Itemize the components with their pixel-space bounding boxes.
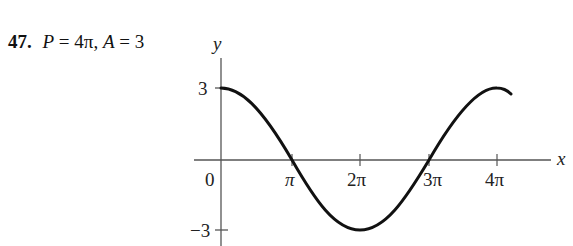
cosine-graph: y x 3 −3 0 π 2π 3π 4π: [0, 0, 573, 246]
y-axis-label: y: [211, 33, 222, 54]
x-axis-label: x: [556, 148, 566, 169]
x-tick-label-2pi: 2π: [347, 169, 367, 190]
cosine-curve: [221, 88, 511, 230]
x-tick-label-3pi: 3π: [423, 169, 443, 190]
y-tick-label-3: 3: [198, 78, 208, 99]
x-tick-label-4pi: 4π: [485, 169, 505, 190]
origin-label: 0: [205, 169, 215, 190]
x-tick-label-pi: π: [285, 169, 295, 190]
y-tick-label-neg3: −3: [190, 220, 210, 241]
